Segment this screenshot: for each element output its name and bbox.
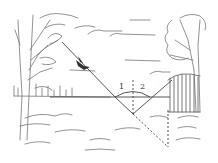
angle-label-2: 2 (140, 83, 145, 91)
grass (14, 84, 200, 150)
angle-arc (115, 92, 150, 98)
construction (50, 42, 172, 147)
incident-ray (115, 97, 133, 114)
left-tree (15, 14, 78, 141)
diagram-scene (0, 0, 218, 163)
flight-line (62, 42, 115, 97)
angle-label-1: 1 (119, 83, 124, 91)
extension-dashed (133, 114, 168, 147)
right-tree (165, 14, 206, 112)
